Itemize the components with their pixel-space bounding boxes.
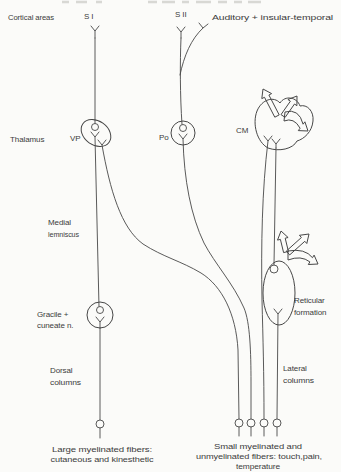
vp-synapse-st-icon [98, 140, 106, 145]
s1-cortical-synapse-icon [91, 26, 99, 38]
cm-synapse-left-icon [264, 136, 272, 141]
caption-large-fibers-line2: cutaneous and kinesthetic [51, 455, 154, 464]
vp-cell-body [92, 124, 99, 131]
reticular-to-cm-fiber [274, 144, 276, 265]
reticular-synapse-icon [274, 309, 282, 314]
vp-synapse-ml-icon [91, 132, 99, 137]
label-vp: VP [70, 134, 80, 143]
cm-nucleus-outline [255, 98, 313, 150]
caption-small-fibers-line2: unmyelinated fibers: touch,pain, [196, 452, 322, 461]
s2-cortical-synapse-icon [177, 27, 185, 38]
reticular-cell-body [270, 265, 278, 273]
label-medial-lemniscus-line1: Medial [48, 218, 71, 227]
caption-small-fibers-line3: temperature [236, 462, 281, 471]
auditory-branch-fiber [180, 28, 203, 75]
gracile-cell-body [97, 307, 104, 314]
label-dorsal-line2: columns [50, 378, 81, 387]
labels: Cortical areas S I S II Auditory + insul… [8, 10, 333, 471]
small-fiber-ending-1 [235, 419, 243, 427]
po-synapse-icon [179, 134, 187, 139]
spinothalamic-to-po-fiber [183, 139, 251, 419]
label-gracile-line1: Gracile + [37, 310, 69, 319]
label-lateral-line1: Lateral [283, 364, 307, 373]
small-fiber-ending-4 [273, 419, 281, 427]
gracile-synapse-icon [96, 317, 104, 328]
label-auditory-insular-temporal: Auditory + insular-temporal [212, 13, 333, 22]
reticular-arrow-up-icon [278, 231, 289, 253]
label-reticular-line2: formation [294, 308, 326, 317]
pathway-s1-dorsal-column [76, 26, 239, 438]
scanned-figure-page: Cortical areas S I S II Auditory + insul… [0, 0, 341, 472]
label-po: Po [159, 133, 169, 142]
large-fiber-ending [96, 420, 104, 428]
spino-reticular-fiber [277, 314, 278, 419]
label-dorsal-line1: Dorsal [50, 366, 73, 375]
cm-synapse-right-icon [272, 139, 280, 144]
medial-lemniscus-fiber [95, 137, 99, 307]
auditory-synapse-icon [199, 23, 208, 28]
caption-small-fibers-line1: Small myelinated and [214, 442, 302, 451]
diagram-canvas: Cortical areas S I S II Auditory + insul… [0, 0, 341, 472]
label-s2: S II [175, 10, 187, 19]
label-cortical-areas: Cortical areas [8, 13, 54, 22]
label-cm: CM [236, 126, 249, 135]
reticular-formation-outline [263, 261, 295, 325]
po-cell-body [180, 125, 187, 132]
spinothalamic-to-vp-fiber [102, 145, 239, 419]
label-medial-lemniscus-line2: lemniscus [48, 230, 79, 239]
label-s1: S I [84, 12, 93, 21]
small-fiber-ending-3 [260, 419, 268, 427]
pathway-s2-po [171, 23, 255, 436]
label-gracile-line2: cuneate n. [37, 321, 73, 330]
label-thalamus: Thalamus [10, 135, 44, 144]
caption-large-fibers-line1: Large myelinated fibers: [52, 445, 152, 454]
cm-arrow-upleft-icon [262, 89, 279, 117]
label-lateral-line2: columns [283, 376, 314, 385]
label-reticular-line1: Reticular [294, 296, 325, 305]
small-fiber-ending-2 [247, 419, 255, 427]
vp-nucleus-outline [76, 114, 116, 152]
